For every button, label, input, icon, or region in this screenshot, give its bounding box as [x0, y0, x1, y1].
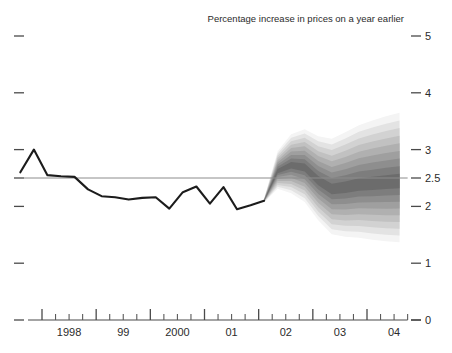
y-tick-label-0: 0 [425, 314, 431, 326]
y-tick-label-3: 3 [425, 144, 431, 156]
chart-title: Percentage increase in prices on a year … [208, 13, 404, 24]
y-tick-label-5: 5 [425, 30, 431, 42]
x-tick-label-99: 99 [117, 326, 129, 338]
x-tick-label-01: 01 [225, 326, 237, 338]
x-tick-label-03: 03 [334, 326, 346, 338]
x-tick-label-02: 02 [280, 326, 292, 338]
y-tick-label-2: 2 [425, 200, 431, 212]
y-tick-label-4: 4 [425, 87, 431, 99]
inflation-fan-chart: 5432.5210 199899200001020304 Percentage … [0, 0, 452, 353]
x-tick-label-1998: 1998 [57, 326, 81, 338]
x-tick-label-2000: 2000 [165, 326, 189, 338]
y-tick-label-2.5: 2.5 [425, 172, 440, 184]
y-tick-label-1: 1 [425, 257, 431, 269]
x-tick-label-04: 04 [388, 326, 400, 338]
chart-canvas: 5432.5210 199899200001020304 Percentage … [0, 0, 452, 353]
